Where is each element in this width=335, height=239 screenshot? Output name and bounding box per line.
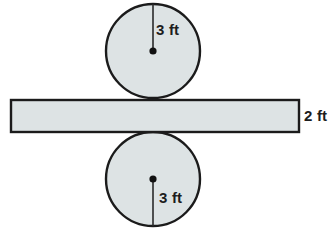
- bar-height-label: 2 ft: [304, 108, 327, 123]
- top-circle-radius-label: 3 ft: [156, 22, 179, 37]
- bottom-circle-radius-label: 3 ft: [159, 190, 182, 205]
- geometry-figure: 3 ft 3 ft 2 ft: [0, 0, 335, 239]
- bottom-circle-center-dot: [149, 175, 156, 182]
- top-circle-center-dot: [149, 47, 156, 54]
- horizontal-bar: [11, 100, 299, 132]
